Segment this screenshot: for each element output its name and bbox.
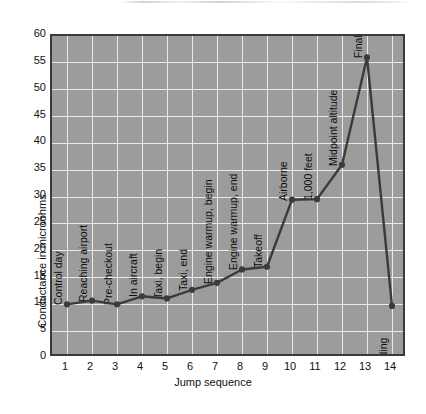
scan-artifact	[120, 1, 410, 3]
plot-area: Control dayReaching airportPre-checkoutI…	[50, 34, 405, 356]
y-tick-label: 20	[2, 243, 46, 254]
y-tick-label: 55	[2, 55, 46, 66]
data-point-marker	[339, 162, 345, 168]
x-tick-label: 4	[128, 360, 152, 372]
data-point-marker	[214, 280, 220, 286]
y-tick-label: 15	[2, 270, 46, 281]
data-point-marker	[164, 295, 170, 301]
data-point-marker	[264, 264, 270, 270]
x-axis-ticks: 1234567891011121314	[50, 360, 405, 376]
y-tick-label: 60	[2, 28, 46, 39]
x-tick-label: 6	[178, 360, 202, 372]
x-tick-label: 1	[53, 360, 77, 372]
y-tick-label: 30	[2, 189, 46, 200]
x-tick-label: 2	[78, 360, 102, 372]
data-point-marker	[239, 266, 245, 272]
x-tick-label: 5	[153, 360, 177, 372]
data-point-marker	[364, 54, 370, 60]
data-point-marker	[114, 301, 120, 307]
y-tick-label: 40	[2, 135, 46, 146]
y-axis-ticks: 051015202530354045505560	[0, 34, 46, 356]
series-polyline	[67, 57, 392, 305]
data-point-marker	[64, 301, 70, 307]
x-tick-label: 3	[103, 360, 127, 372]
series-line	[52, 36, 405, 356]
x-tick-label: 14	[378, 360, 402, 372]
x-tick-label: 11	[303, 360, 327, 372]
data-point-marker	[89, 297, 95, 303]
x-tick-label: 8	[228, 360, 252, 372]
y-tick-label: 35	[2, 162, 46, 173]
data-point-marker	[389, 303, 395, 309]
y-tick-label: 5	[2, 323, 46, 334]
x-tick-label: 9	[253, 360, 277, 372]
data-point-marker	[189, 287, 195, 293]
y-tick-label: 0	[2, 350, 46, 361]
data-point-marker	[314, 196, 320, 202]
x-axis-title: Jump sequence	[0, 376, 426, 388]
x-tick-label: 12	[328, 360, 352, 372]
data-point-marker	[139, 293, 145, 299]
y-tick-label: 10	[2, 296, 46, 307]
chart-figure: Conductance in microohms 051015202530354…	[0, 0, 426, 414]
y-tick-label: 50	[2, 82, 46, 93]
x-tick-label: 13	[353, 360, 377, 372]
x-tick-label: 10	[278, 360, 302, 372]
y-tick-label: 45	[2, 109, 46, 120]
x-tick-label: 7	[203, 360, 227, 372]
data-point-marker	[289, 197, 295, 203]
y-tick-label: 25	[2, 216, 46, 227]
